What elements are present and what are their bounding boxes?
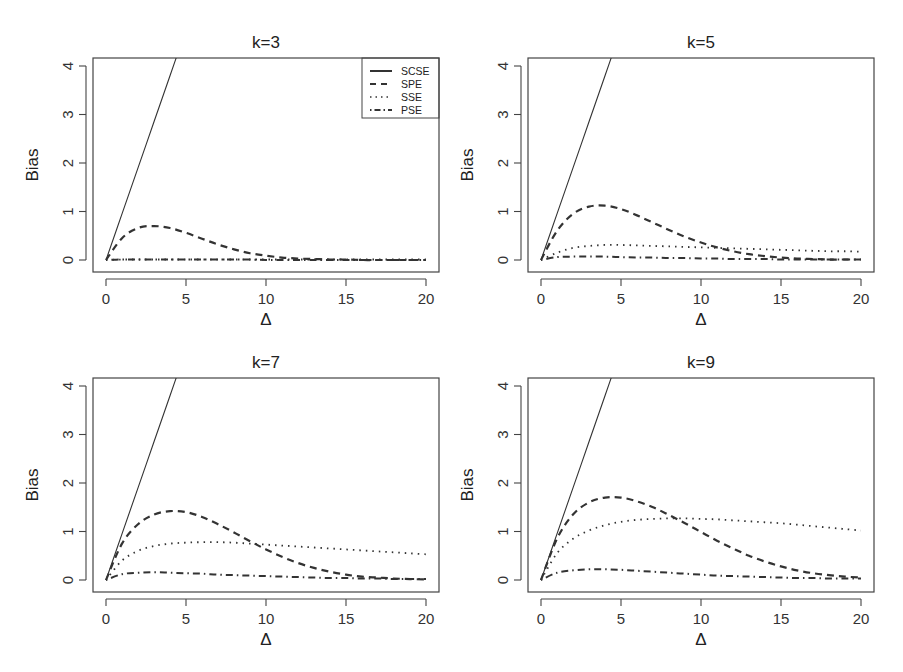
- x-tick-label: 5: [182, 610, 190, 627]
- y-tick-label: 0: [59, 256, 76, 264]
- y-tick-label: 4: [494, 62, 511, 70]
- x-tick-label: 15: [338, 290, 355, 307]
- panel-title: k=5: [687, 33, 715, 52]
- curves: [106, 350, 426, 580]
- plot-frame: [528, 378, 874, 592]
- x-axis-label: Δ: [260, 310, 271, 329]
- curves: [541, 30, 861, 260]
- curve-spe: [106, 226, 426, 260]
- x-tick-label: 20: [853, 610, 870, 627]
- y-tick-label: 4: [494, 382, 511, 390]
- x-tick-label: 15: [773, 610, 790, 627]
- x-tick-label: 15: [338, 610, 355, 627]
- panel-title: k=7: [252, 353, 280, 372]
- x-axis-label: Δ: [695, 630, 706, 649]
- x-axis-label: Δ: [695, 310, 706, 329]
- x-tick-label: 20: [853, 290, 870, 307]
- y-axis-label: Bias: [23, 468, 42, 501]
- y-axis-label: Bias: [458, 468, 477, 501]
- y-axis: 01234: [494, 62, 521, 264]
- y-tick-label: 4: [59, 62, 76, 70]
- x-axis: 05101520: [102, 279, 435, 307]
- x-tick-label: 15: [773, 290, 790, 307]
- legend-label-spe: SPE: [401, 78, 422, 90]
- legend: SCSE SPE SSE PSE: [362, 58, 439, 118]
- x-tick-label: 5: [617, 290, 625, 307]
- x-tick-label: 10: [258, 610, 275, 627]
- curve-pse: [541, 569, 861, 580]
- curve-pse: [106, 572, 426, 580]
- y-axis: 01234: [59, 62, 86, 264]
- x-tick-label: 10: [258, 290, 275, 307]
- y-tick-label: 2: [59, 479, 76, 487]
- panel-title: k=3: [252, 33, 280, 52]
- x-tick-label: 5: [617, 610, 625, 627]
- panel-k3: k=3 01234 05101520 Bias Δ SCSE SPE SSE P…: [23, 30, 439, 329]
- y-axis: 01234: [494, 382, 521, 584]
- x-tick-label: 0: [102, 290, 110, 307]
- y-tick-label: 3: [59, 430, 76, 438]
- panel-k9: k=9 01234 05101520 Bias Δ: [458, 350, 874, 649]
- panel-k7: k=7 01234 05101520 Bias Δ: [23, 350, 439, 649]
- curves: [106, 30, 426, 260]
- y-tick-label: 1: [494, 527, 511, 535]
- x-tick-label: 20: [418, 290, 435, 307]
- x-axis: 05101520: [102, 599, 435, 627]
- legend-label-pse: PSE: [401, 104, 422, 116]
- curve-spe: [541, 205, 861, 260]
- curve-scse: [106, 350, 186, 580]
- legend-label-scse: SCSE: [401, 65, 430, 77]
- y-tick-label: 3: [494, 110, 511, 118]
- y-tick-label: 2: [494, 479, 511, 487]
- panel-title: k=9: [687, 353, 715, 372]
- curve-spe: [106, 511, 426, 580]
- y-tick-label: 1: [494, 207, 511, 215]
- curves: [541, 350, 861, 580]
- curve-pse: [541, 257, 861, 260]
- y-tick-label: 4: [59, 382, 76, 390]
- x-axis-label: Δ: [260, 630, 271, 649]
- x-tick-label: 0: [537, 290, 545, 307]
- y-tick-label: 2: [59, 159, 76, 167]
- curve-pse: [106, 259, 426, 260]
- y-tick-label: 3: [59, 110, 76, 118]
- x-tick-label: 5: [182, 290, 190, 307]
- x-axis: 05101520: [537, 279, 870, 307]
- x-tick-label: 0: [537, 610, 545, 627]
- plot-frame: [528, 58, 874, 272]
- bias-figure: k=3 01234 05101520 Bias Δ SCSE SPE SSE P…: [0, 0, 903, 672]
- y-tick-label: 1: [59, 207, 76, 215]
- legend-label-sse: SSE: [401, 91, 422, 103]
- y-axis-label: Bias: [458, 148, 477, 181]
- panel-k5: k=5 01234 05101520 Bias Δ: [458, 30, 874, 329]
- curve-sse: [106, 542, 426, 580]
- x-axis: 05101520: [537, 599, 870, 627]
- curve-scse: [541, 30, 621, 260]
- x-tick-label: 0: [102, 610, 110, 627]
- y-axis: 01234: [59, 382, 86, 584]
- y-tick-label: 0: [494, 576, 511, 584]
- plot-frame: [93, 58, 439, 272]
- curve-spe: [541, 497, 861, 580]
- y-tick-label: 0: [59, 576, 76, 584]
- y-axis-label: Bias: [23, 148, 42, 181]
- y-tick-label: 0: [494, 256, 511, 264]
- plot-frame: [93, 378, 439, 592]
- y-tick-label: 1: [59, 527, 76, 535]
- x-tick-label: 10: [693, 610, 710, 627]
- x-tick-label: 10: [693, 290, 710, 307]
- curve-sse: [541, 518, 861, 580]
- x-tick-label: 20: [418, 610, 435, 627]
- y-tick-label: 3: [494, 430, 511, 438]
- y-tick-label: 2: [494, 159, 511, 167]
